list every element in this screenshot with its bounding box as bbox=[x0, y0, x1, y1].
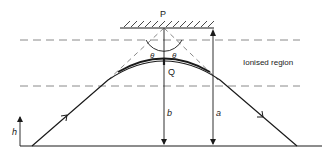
label-h: h bbox=[12, 127, 17, 137]
distance-a-top-arrow-icon bbox=[210, 29, 216, 36]
label-theta-right: θ bbox=[172, 51, 177, 60]
label-b: b bbox=[167, 108, 172, 118]
label-theta-left: θ bbox=[150, 51, 155, 60]
ray-path bbox=[32, 61, 297, 146]
label-q: Q bbox=[168, 67, 175, 77]
virtual-path-left bbox=[108, 28, 164, 80]
ionosphere-reflection-diagram: P Q θ θ h b a Ionised region bbox=[0, 0, 332, 156]
label-ionised-region: Ionised region bbox=[243, 58, 293, 67]
virtual-reflecting-plane bbox=[120, 21, 214, 28]
label-p: P bbox=[160, 9, 166, 19]
label-a: a bbox=[216, 108, 221, 118]
